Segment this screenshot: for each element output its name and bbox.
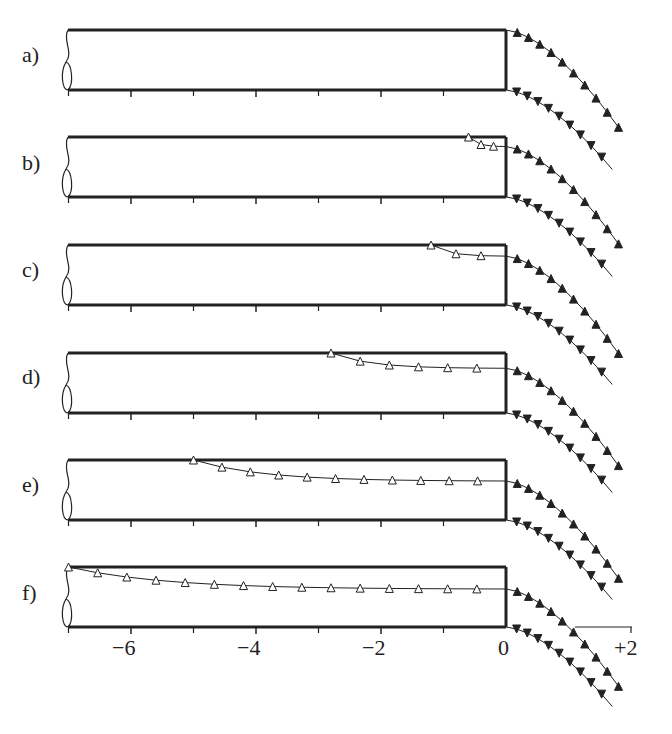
figure-canvas — [0, 0, 672, 734]
x-tick-label: −4 — [237, 635, 260, 661]
panel-label-e: e) — [22, 472, 39, 498]
panel-c — [62, 241, 622, 384]
panel-b — [62, 133, 622, 276]
x-tick-label: +2 — [614, 635, 637, 661]
panel-d — [62, 349, 622, 492]
x-tick-label: −2 — [362, 635, 385, 661]
panels — [62, 28, 632, 706]
panel-e — [62, 456, 622, 599]
panel-f — [62, 563, 622, 706]
panel-label-a: a) — [22, 42, 39, 68]
panel-a — [62, 28, 622, 169]
panel-label-d: d) — [22, 364, 40, 390]
x-tick-label: 0 — [498, 635, 509, 661]
x-tick-label: −6 — [112, 635, 135, 661]
panel-label-b: b) — [22, 150, 40, 176]
panel-label-c: c) — [22, 257, 39, 283]
panel-label-f: f) — [22, 580, 37, 606]
